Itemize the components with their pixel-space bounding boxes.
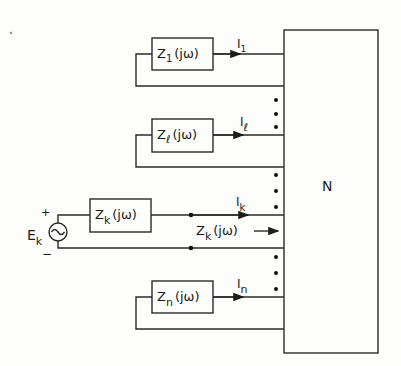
terminal-node-bottom	[189, 246, 194, 251]
impedance-label-k: Zk(jω)	[95, 207, 137, 227]
source-label: Ek	[27, 227, 43, 248]
source-plus: +	[41, 206, 50, 219]
impedance-label-1: Z1(jω)	[157, 46, 199, 64]
current-label-l: Iℓ	[240, 115, 248, 134]
ellipsis-dots-2	[274, 173, 278, 209]
port-k: Zk(jω) Ik + Ek − Zk(jω)	[27, 195, 284, 261]
ellipsis-dots-3	[274, 255, 278, 291]
impedance-label-l: Zℓ(jω)	[157, 127, 197, 146]
impedance-label-n: Zn(jω)	[157, 289, 200, 309]
port-l: Zℓ(jω) Iℓ	[136, 115, 284, 167]
current-label-1: I1	[237, 37, 246, 54]
speck	[10, 32, 13, 35]
ellipsis-dots-1	[274, 98, 278, 129]
terminal-node-top	[189, 213, 194, 218]
circuit-diagram: N Z1(jω) I1 Zℓ(jω) Iℓ	[0, 0, 401, 366]
current-label-n: In	[237, 277, 248, 296]
network-label: N	[322, 178, 332, 194]
port-1: Z1(jω) I1	[136, 37, 284, 86]
input-impedance-label: Zk(jω)	[196, 223, 238, 243]
port-n: Zn(jω) In	[136, 277, 284, 329]
source-minus: −	[42, 247, 52, 261]
current-label-k: Ik	[236, 195, 246, 213]
